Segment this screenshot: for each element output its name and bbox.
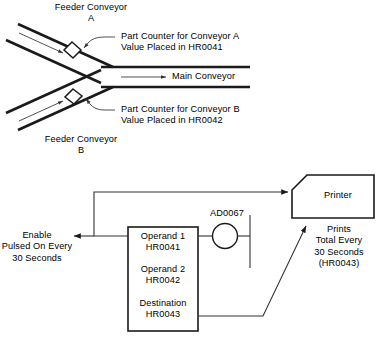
output-coil-ad0067 <box>213 224 238 249</box>
part-counter-a-label: Part Counter for Conveyor A Value Placed… <box>121 31 321 54</box>
operand2-name-label: Operand 2 <box>128 264 198 275</box>
printer-label: Printer <box>303 190 373 201</box>
operand2-value-label: HR0042 <box>128 275 198 286</box>
enable-label: Enable Pulsed On Every 30 Seconds <box>0 230 74 264</box>
operand1-value-label: HR0041 <box>128 242 198 253</box>
feeder-conveyor-a-label: Feeder Conveyor A <box>32 2 150 25</box>
destination-name-label: Destination <box>126 298 200 309</box>
diagram-root: Feeder Conveyor A Feeder Conveyor B Main… <box>0 0 381 343</box>
feeder-conveyor-b-rails <box>6 70 113 130</box>
main-conveyor-label: Main Conveyor <box>172 71 282 82</box>
feeder-conveyor-b-label: Feeder Conveyor B <box>22 134 140 157</box>
leader-line-counter-a <box>84 37 115 48</box>
printer-note-label: Prints Total Every 30 Seconds (HR0043) <box>297 224 381 270</box>
coil-address-label: AD0067 <box>197 208 257 219</box>
leader-line-counter-b <box>86 99 115 110</box>
operand1-name-label: Operand 1 <box>128 231 198 242</box>
part-counter-b-label: Part Counter for Conveyor B Value Placed… <box>121 104 321 127</box>
destination-value-label: HR0043 <box>128 309 198 320</box>
feeder-conveyor-a-rails <box>6 24 113 83</box>
part-counter-sensor-a-icon <box>64 42 81 58</box>
